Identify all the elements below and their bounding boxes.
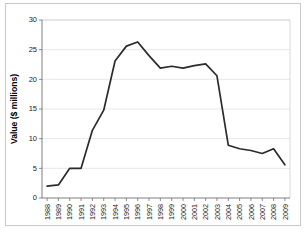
x-tick-label: 1989 — [54, 204, 63, 220]
chart-figure: 051015202530 198819891990199119921993199… — [0, 0, 308, 240]
x-tick-label: 2002 — [201, 204, 210, 220]
x-tick-label: 1992 — [88, 204, 97, 220]
y-axis-title: Value ($ millions) — [9, 74, 19, 144]
x-tick-label: 1997 — [145, 204, 154, 220]
x-axis-ticks: 1988198919901991199219931994199519961997… — [43, 198, 290, 220]
x-tick-label: 1988 — [43, 204, 52, 220]
x-tick-label: 1994 — [111, 204, 120, 220]
x-tick-label: 1998 — [156, 204, 165, 220]
y-tick-label: 5 — [33, 164, 37, 173]
x-tick-label: 2009 — [281, 204, 290, 220]
x-tick-label: 2008 — [269, 204, 278, 220]
x-tick-label: 1996 — [133, 204, 142, 220]
y-tick-label: 0 — [33, 193, 37, 202]
x-tick-label: 2004 — [224, 204, 233, 220]
line-chart: 051015202530 198819891990199119921993199… — [0, 0, 308, 240]
x-tick-label: 2005 — [235, 204, 244, 220]
x-tick-label: 1990 — [65, 204, 74, 220]
y-tick-label: 10 — [29, 134, 37, 143]
y-tick-label: 25 — [29, 45, 37, 54]
y-axis-ticks: 051015202530 — [29, 15, 42, 202]
x-tick-label: 1995 — [122, 204, 131, 220]
x-tick-label: 2003 — [213, 204, 222, 220]
x-tick-label: 2006 — [247, 204, 256, 220]
x-tick-label: 1991 — [77, 204, 86, 220]
y-tick-label: 20 — [29, 75, 37, 84]
x-tick-label: 1993 — [99, 204, 108, 220]
y-tick-label: 30 — [29, 15, 37, 24]
x-tick-label: 2000 — [179, 204, 188, 220]
x-tick-label: 1999 — [167, 204, 176, 220]
x-tick-label: 2001 — [190, 204, 199, 220]
x-tick-label: 2007 — [258, 204, 267, 220]
y-tick-label: 15 — [29, 104, 37, 113]
